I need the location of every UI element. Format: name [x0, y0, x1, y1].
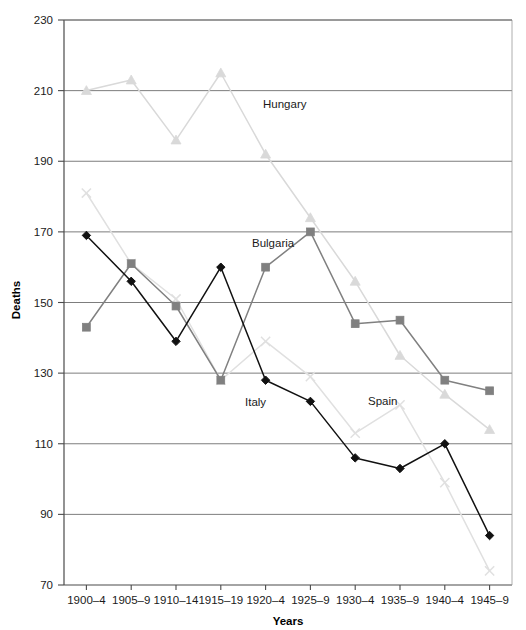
y-tick-label: 210 [34, 85, 53, 97]
data-point-marker [261, 337, 270, 346]
y-tick-label: 90 [40, 508, 53, 520]
data-point-marker [396, 464, 404, 472]
data-point-marker [396, 316, 404, 324]
data-point-marker [216, 68, 226, 77]
y-tick-label: 70 [40, 579, 53, 591]
y-axis-title: Deaths [10, 281, 22, 319]
data-point-marker [82, 188, 91, 197]
data-point-marker [261, 376, 269, 384]
data-point-marker [172, 302, 180, 310]
y-tick-labels: 7090110130150170190210230 [34, 14, 64, 591]
y-tick-label: 230 [34, 14, 53, 26]
series-line [86, 235, 489, 535]
data-point-marker [395, 350, 405, 359]
series-bulgaria [83, 228, 494, 395]
data-point-marker [441, 440, 449, 448]
chart-container: 7090110130150170190210230 1900–41905–919… [0, 0, 526, 630]
data-point-marker [350, 276, 360, 285]
line-chart: 7090110130150170190210230 1900–41905–919… [0, 0, 526, 630]
x-tick-label: 1920–4 [246, 594, 285, 606]
series-label-hungary: Hungary [263, 98, 307, 110]
data-series [81, 68, 494, 576]
y-tick-label: 150 [34, 297, 53, 309]
x-axis-title: Years [273, 615, 304, 627]
y-tick-label: 110 [35, 438, 53, 450]
data-point-marker [126, 75, 136, 84]
data-point-marker [127, 260, 135, 268]
y-tick-label: 170 [34, 226, 53, 238]
y-tick-label: 190 [34, 155, 53, 167]
series-label-spain: Spain [368, 395, 397, 407]
data-point-marker [485, 531, 493, 539]
data-point-marker [261, 149, 271, 158]
data-point-marker [262, 263, 270, 271]
data-point-marker [351, 429, 360, 438]
data-point-marker [217, 376, 225, 384]
x-tick-label: 1930–4 [336, 594, 375, 606]
data-point-marker [441, 376, 449, 384]
data-point-marker [485, 566, 494, 575]
series-label-italy: Italy [245, 396, 266, 408]
x-tick-label: 1945–9 [470, 594, 508, 606]
x-tick-labels: 1900–41905–91910–141915–191920–41925–919… [67, 585, 509, 606]
x-tick-label: 1905–9 [112, 594, 150, 606]
x-tick-label: 1925–9 [291, 594, 329, 606]
x-tick-label: 1940–4 [426, 594, 465, 606]
series-italy [82, 231, 494, 540]
series-line [86, 73, 489, 430]
x-tick-label: 1910–14 [154, 594, 199, 606]
x-tick-label: 1915–19 [198, 594, 243, 606]
series-label-bulgaria: Bulgaria [252, 237, 295, 249]
y-tick-label: 130 [34, 367, 53, 379]
series-line [86, 232, 489, 391]
x-tick-label: 1935–9 [381, 594, 419, 606]
data-point-marker [351, 320, 359, 328]
x-tick-label: 1900–4 [67, 594, 106, 606]
data-point-marker [83, 323, 91, 331]
data-point-marker [486, 387, 494, 395]
data-point-marker [440, 478, 449, 487]
data-point-marker [217, 263, 225, 271]
series-hungary [81, 68, 494, 434]
data-point-marker [307, 228, 315, 236]
